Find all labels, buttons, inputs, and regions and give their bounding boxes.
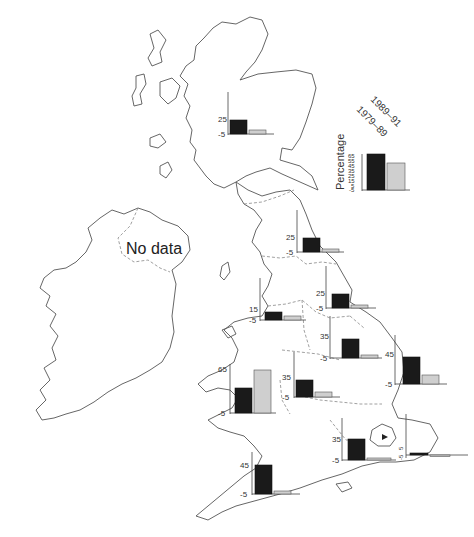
svg-text:25: 25	[286, 233, 295, 242]
chart-southeast: 35 -5	[332, 418, 402, 467]
bar-westmid-1989-91	[315, 392, 332, 397]
svg-text:-5: -5	[385, 380, 393, 389]
svg-text:15: 15	[249, 305, 258, 314]
svg-text:45: 45	[240, 461, 249, 470]
coast-skye	[160, 78, 180, 104]
bar-eastmid-1979-89	[342, 339, 359, 358]
bar-wales-1989-91	[254, 370, 271, 413]
bar-london-1989-91	[430, 455, 450, 457]
coast-hebrides	[148, 30, 166, 66]
bar-southeast-1989-91	[367, 458, 391, 460]
svg-text:-5: -5	[249, 316, 257, 325]
chart-yorkshire: 25 -5	[316, 266, 381, 315]
coast-isle-of-man	[220, 262, 230, 280]
chart-north: 25 -5	[286, 210, 346, 259]
coast-anglesey	[222, 326, 236, 338]
bar-northwest-1989-91	[284, 316, 301, 320]
coast-islay	[160, 162, 172, 178]
svg-text:35: 35	[320, 332, 329, 341]
coast-isle-of-wight	[336, 482, 352, 492]
bar-north-1989-91	[322, 249, 339, 252]
svg-text:35: 35	[282, 373, 291, 382]
bar-southwest-1989-91	[274, 491, 291, 494]
legend-bar-1979-89	[367, 154, 385, 190]
coast-hebrides-2	[132, 74, 146, 106]
svg-text:-5: -5	[316, 304, 324, 313]
svg-text:-5: -5	[398, 454, 404, 460]
chart-legend: 1979–89 1989–91 Percentage 65 55 45 35 2…	[334, 92, 424, 192]
bar-north-1979-89	[303, 238, 320, 252]
chart-london: 5 -5	[400, 414, 470, 463]
svg-text:65: 65	[218, 365, 227, 374]
svg-text:-5: -5	[218, 409, 226, 418]
bar-eastanglia-1979-89	[403, 357, 420, 384]
border-scotland-england	[244, 190, 294, 204]
bar-westmid-1979-89	[296, 380, 313, 397]
bar-yorkshire-1979-89	[332, 294, 349, 308]
legend-bar-1989-91	[387, 163, 405, 190]
chart-westmid: 35 -5	[282, 352, 342, 404]
svg-text:-5: -5	[218, 130, 226, 139]
svg-text:45: 45	[385, 350, 394, 359]
chart-northwest: 15 -5	[248, 278, 308, 327]
svg-text:-5: -5	[282, 393, 290, 402]
bar-wales-1979-89	[235, 388, 252, 413]
no-data-label: No data	[126, 240, 182, 258]
bar-eastmid-1989-91	[361, 355, 378, 358]
legend-ylabel: Percentage	[334, 134, 346, 190]
bar-southeast-1979-89	[348, 439, 365, 460]
bar-london-1979-89	[410, 453, 428, 455]
chart-southwest: 45 -5	[240, 452, 300, 501]
svg-text:-5: -5	[332, 456, 340, 465]
coast-mull	[150, 134, 166, 148]
bar-southwest-1979-89	[255, 465, 272, 494]
bar-scotland-1989-91	[249, 130, 266, 134]
legend-chart: 1979–89 1989–91 Percentage 65 55 45 35 2…	[334, 92, 424, 192]
svg-text:35: 35	[332, 435, 341, 444]
bar-eastanglia-1989-91	[422, 375, 439, 384]
svg-text:-5: -5	[349, 187, 355, 192]
bar-yorkshire-1989-91	[351, 305, 368, 308]
svg-text:-5: -5	[240, 490, 248, 499]
bar-scotland-1979-89	[230, 120, 247, 134]
chart-wales: 65 -5	[218, 364, 278, 420]
chart-eastanglia: 45 -5	[385, 335, 450, 391]
svg-text:25: 25	[218, 115, 227, 124]
chart-scotland: 25 -5	[218, 92, 278, 141]
bar-northwest-1979-89	[265, 312, 282, 320]
svg-text:-5: -5	[286, 248, 294, 257]
svg-text:25: 25	[316, 289, 325, 298]
